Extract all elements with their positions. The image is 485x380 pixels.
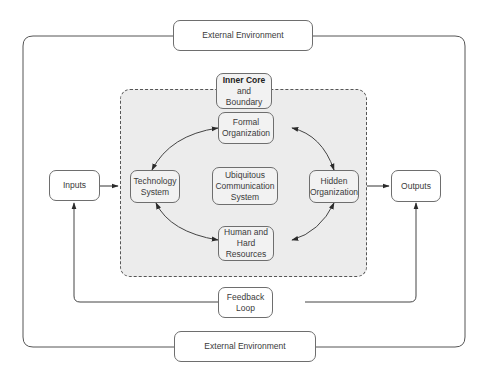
external-environment-top-label: External Environment xyxy=(202,30,283,41)
technology-line1: Technology xyxy=(133,176,176,187)
human-hard-resources-box: Human and Hard Resources xyxy=(218,226,274,261)
outputs-box: Outputs xyxy=(391,170,441,202)
formal-org-line1: Formal xyxy=(233,117,259,128)
technology-line2: System xyxy=(141,187,169,198)
human-line1: Human and xyxy=(224,227,268,238)
hidden-organization-box: Hidden Organization xyxy=(309,170,359,203)
external-environment-top: External Environment xyxy=(173,20,313,51)
ubiquitous-communication-box: Ubiquitous Communication System xyxy=(212,167,278,205)
inner-core-title: Inner Core xyxy=(223,75,266,86)
inner-core-line3: Boundary xyxy=(226,97,262,108)
formal-organization-box: Formal Organization xyxy=(218,112,274,144)
human-line2: Hard xyxy=(237,238,255,249)
ubiquitous-line2: Communication xyxy=(215,181,274,192)
formal-org-line2: Organization xyxy=(222,128,270,139)
inputs-label: Inputs xyxy=(63,180,86,191)
human-line3: Resources xyxy=(226,249,267,260)
external-environment-bottom: External Environment xyxy=(174,331,316,362)
external-environment-bottom-label: External Environment xyxy=(204,341,285,352)
ubiquitous-line3: System xyxy=(231,192,259,203)
ubiquitous-line1: Ubiquitous xyxy=(225,170,265,181)
hidden-org-line2: Organization xyxy=(310,187,358,198)
outputs-label: Outputs xyxy=(401,181,431,192)
technology-system-box: Technology System xyxy=(130,170,180,203)
inner-core-line2: and xyxy=(237,86,251,97)
inner-core-box: Inner Core and Boundary xyxy=(216,73,272,109)
feedback-loop-label: Feedback Loop xyxy=(219,292,272,314)
hidden-org-line1: Hidden xyxy=(321,176,348,187)
feedback-loop-box: Feedback Loop xyxy=(218,287,273,318)
inputs-box: Inputs xyxy=(49,170,100,201)
